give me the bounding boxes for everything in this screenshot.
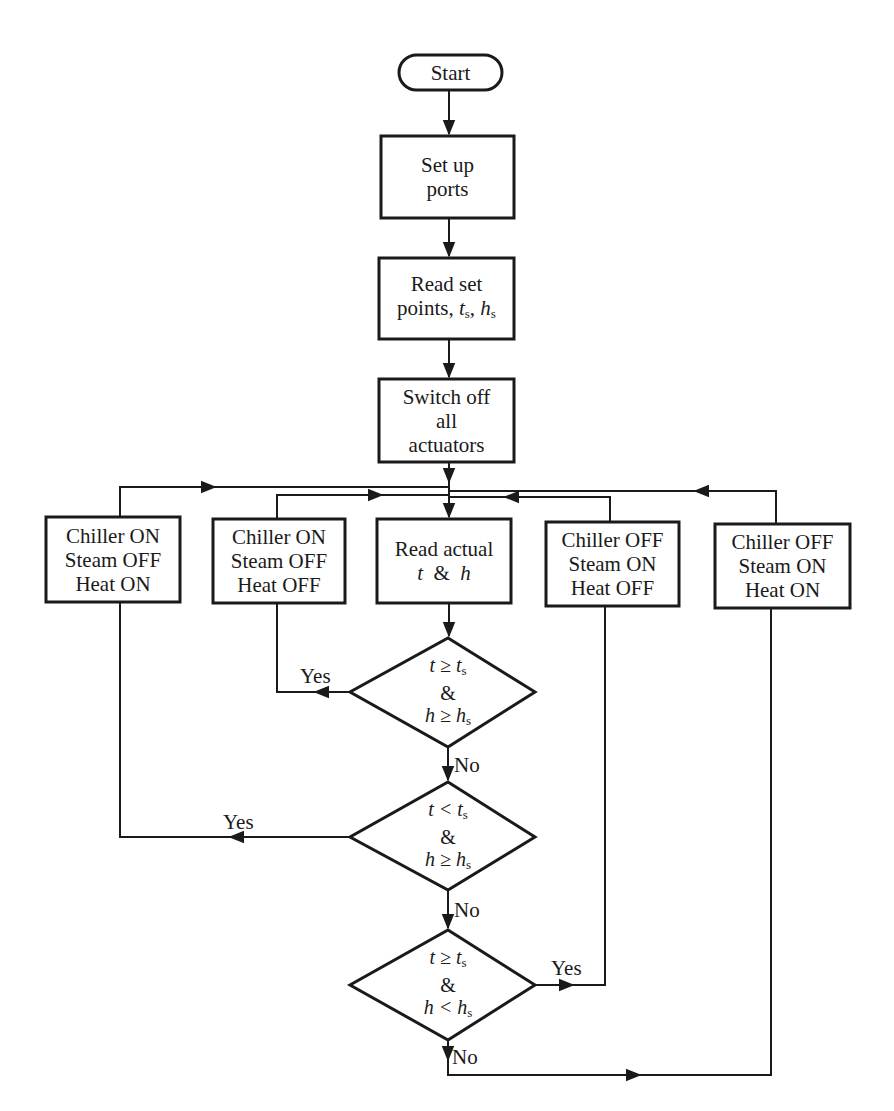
read-setpoints-line-2: points, ts, hs [397,296,496,326]
decision-1-line-1: t ≥ ts [429,654,466,682]
action-3-steam: Steam ON [568,552,656,576]
action-3-chiller: Chiller OFF [561,528,663,552]
decision-2-amp: & [440,826,456,848]
action-box-1-text: Chiller ON Steam OFF Heat ON [46,517,180,602]
decision-2-line-1: t < ts [428,798,468,826]
start-label: Start [431,61,471,85]
read-actual-line-1: Read actual [395,537,494,561]
switch-off-line-3: actuators [409,433,485,457]
decision-2-line-3: h ≥ hs [425,848,471,876]
action-box-4-text: Chiller OFF Steam ON Heat ON [715,524,850,608]
action-1-heat: Heat ON [75,572,150,596]
action-box-2-text: Chiller ON Steam OFF Heat OFF [213,519,345,603]
switch-off-line-1: Switch off [403,385,491,409]
action-4-steam: Steam ON [738,554,826,578]
decision-2-no-label: No [454,898,480,923]
action-box-3-text: Chiller OFF Steam ON Heat OFF [546,522,679,606]
action-4-heat: Heat ON [745,578,820,602]
decision-3-line-3: h < hs [424,996,473,1024]
decision-3-text: t ≥ ts & h < hs [398,942,498,1028]
read-setpoints-text: Read set points, ts, hs [379,258,514,339]
decision-3-line-1: t ≥ ts [429,946,466,974]
decision-1-text: t ≥ ts & h ≥ hs [398,650,498,736]
action-1-steam: Steam OFF [65,548,161,572]
action-2-heat: Heat OFF [237,573,320,597]
decision-3-amp: & [440,974,456,996]
decision-3-yes-label: Yes [551,956,582,981]
setup-ports-text: Set up ports [381,136,514,218]
action-2-steam: Steam OFF [231,549,327,573]
read-setpoints-line-1: Read set [411,272,483,296]
decision-1-line-3: h ≥ hs [425,704,471,732]
switch-off-line-2: all [436,409,457,433]
action-3-heat: Heat OFF [571,576,654,600]
start-label-wrap: Start [399,55,502,90]
setup-line-1: Set up [421,153,474,177]
decision-1-amp: & [440,682,456,704]
action-1-chiller: Chiller ON [66,524,160,548]
setup-line-2: ports [427,177,469,201]
decision-1-yes-label: Yes [300,664,331,689]
action-2-chiller: Chiller ON [232,525,326,549]
decision-1-no-label: No [454,753,480,778]
decision-3-no-label: No [452,1045,478,1070]
action-4-chiller: Chiller OFF [731,530,833,554]
read-actual-line-2: t & h [417,561,471,585]
switch-off-text: Switch off all actuators [379,379,514,462]
read-actual-text: Read actual t & h [377,519,511,603]
decision-2-yes-label: Yes [223,810,254,835]
decision-2-text: t < ts & h ≥ hs [398,794,498,880]
